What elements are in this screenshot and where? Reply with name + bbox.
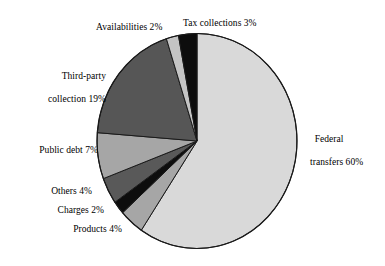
slice-label-charges: Charges 2% — [24, 205, 104, 217]
slice-label-third-party-collection: Third-party collection 19% — [22, 59, 106, 128]
pie-slices-group — [97, 34, 297, 249]
slice-label-third-party-line1: Third-party — [62, 71, 106, 81]
slice-label-tax-collections: Tax collections 3% — [183, 18, 257, 30]
slice-label-third-party-line2: collection 19% — [22, 94, 106, 106]
slice-label-federal-transfers: Federal transfers 60% — [305, 122, 383, 191]
slice-label-public-debt: Public debt 7% — [6, 145, 98, 157]
slice-label-products: Products 4% — [40, 224, 122, 236]
slice-label-federal-line2: transfers 60% — [305, 157, 383, 169]
slice-label-availabilities: Availabilities 2% — [96, 22, 162, 34]
slice-label-federal-line1: Federal — [315, 134, 344, 144]
pie-chart-figure: Availabilities 2% Tax collections 3% Thi… — [0, 0, 385, 266]
slice-label-others: Others 4% — [14, 186, 92, 198]
